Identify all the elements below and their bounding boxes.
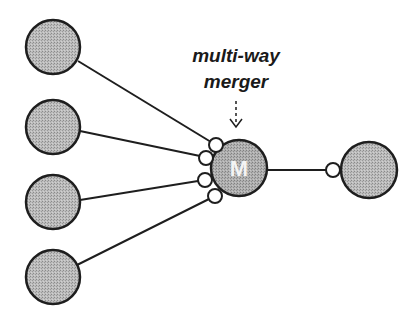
input-node-2[interactable] — [26, 100, 80, 154]
input-node-3[interactable] — [26, 175, 80, 229]
input-port-2[interactable] — [199, 151, 213, 165]
dashed-arrow-icon — [230, 101, 242, 127]
output-port[interactable] — [326, 163, 340, 177]
label-line-1: multi-way — [192, 45, 281, 66]
input-node-1[interactable] — [26, 20, 80, 74]
edge-input-2 — [80, 131, 200, 156]
input-node-4[interactable] — [26, 250, 80, 304]
merger-node-label: M — [230, 156, 248, 181]
label-line-2: merger — [204, 71, 270, 92]
input-nodes — [26, 20, 80, 304]
edge-input-1 — [78, 61, 211, 142]
merger-diagram: M multi-way merger — [0, 0, 414, 322]
input-port-3[interactable] — [198, 173, 212, 187]
output-node[interactable] — [341, 142, 397, 198]
edge-input-4 — [77, 199, 209, 265]
input-port-1[interactable] — [209, 138, 223, 152]
input-port-4[interactable] — [208, 189, 222, 203]
edge-input-3 — [80, 181, 198, 200]
